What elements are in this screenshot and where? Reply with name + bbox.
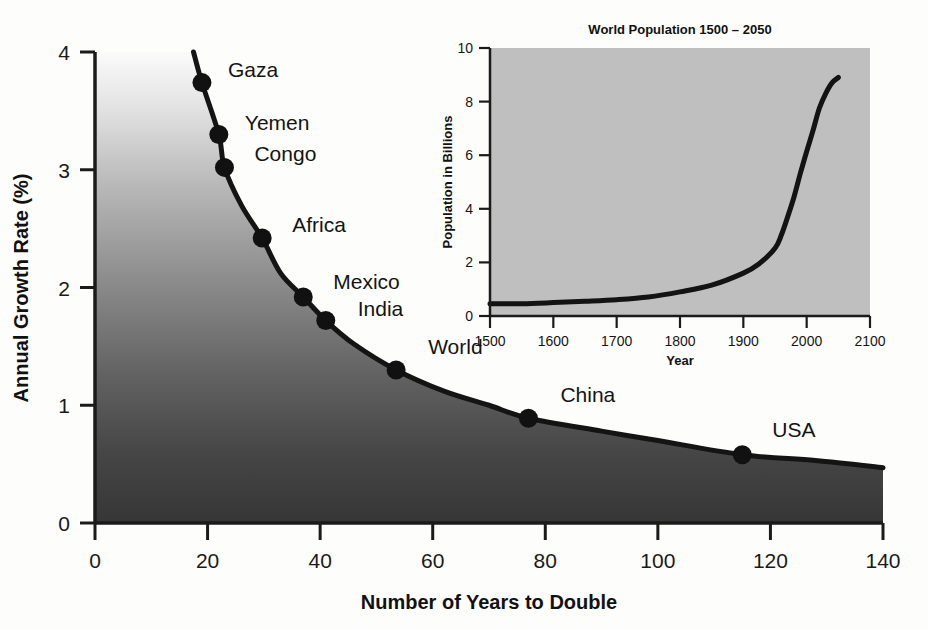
inset-x-tick-label: 1800 [664,333,695,349]
y-tick-label: 1 [58,394,70,417]
inset-y-axis-ticks: 0246810 [457,40,490,324]
inset-x-axis-title: Year [666,353,693,368]
inset-x-tick-label: 2000 [791,333,822,349]
inset-y-tick-label: 10 [457,40,473,56]
y-axis-title: Annual Growth Rate (%) [10,174,32,403]
inset-x-tick-label: 1600 [538,333,569,349]
figure-root: 01234 020406080100120140 Number of Years… [0,0,928,629]
y-axis-ticks: 01234 [58,41,95,535]
data-point-label: Yemen [245,111,310,134]
data-point-label: Congo [254,142,316,165]
inset-y-axis-title: Population in Billions [440,116,455,249]
x-tick-label: 60 [421,549,444,572]
inset-y-tick-label: 0 [465,308,473,324]
y-tick-label: 4 [58,41,70,64]
data-point-label: India [358,297,404,320]
inset-y-tick-label: 2 [465,254,473,270]
inset-x-tick-label: 1500 [474,333,505,349]
data-point-marker[interactable] [209,125,228,144]
data-point-marker[interactable] [387,360,406,379]
x-axis-ticks: 020406080100120140 [89,523,900,572]
x-tick-label: 120 [753,549,788,572]
inset-x-tick-label: 2100 [854,333,885,349]
doubling-time-chart: 01234 020406080100120140 Number of Years… [0,0,928,629]
x-tick-label: 80 [534,549,557,572]
y-tick-label: 0 [58,512,70,535]
data-point-marker[interactable] [294,287,313,306]
inset-x-tick-label: 1900 [728,333,759,349]
y-tick-label: 3 [58,159,70,182]
inset-title: World Population 1500 – 2050 [588,22,771,37]
world-population-inset-chart: 0246810 1500160017001800190020002100 Wor… [440,22,886,368]
x-tick-label: 100 [640,549,675,572]
data-point-label: China [560,383,615,406]
inset-x-tick-label: 1700 [601,333,632,349]
inset-plot-background [490,48,870,316]
data-point-marker[interactable] [192,73,211,92]
inset-y-tick-label: 6 [465,147,473,163]
x-tick-label: 20 [196,549,219,572]
data-point-marker[interactable] [253,229,272,248]
x-tick-label: 140 [865,549,900,572]
x-tick-label: 0 [89,549,101,572]
y-tick-label: 2 [58,277,70,300]
data-point-label: Africa [292,213,346,236]
data-point-marker[interactable] [519,409,538,428]
data-point-marker[interactable] [215,158,234,177]
inset-y-tick-label: 4 [465,201,473,217]
data-point-marker[interactable] [316,311,335,330]
x-tick-label: 40 [308,549,331,572]
inset-x-axis-ticks: 1500160017001800190020002100 [474,316,885,349]
data-point-label: Gaza [228,58,279,81]
x-axis-title: Number of Years to Double [361,591,617,613]
data-point-label: USA [772,418,815,441]
data-point-marker[interactable] [733,445,752,464]
inset-y-tick-label: 8 [465,94,473,110]
data-point-label: Mexico [333,270,400,293]
